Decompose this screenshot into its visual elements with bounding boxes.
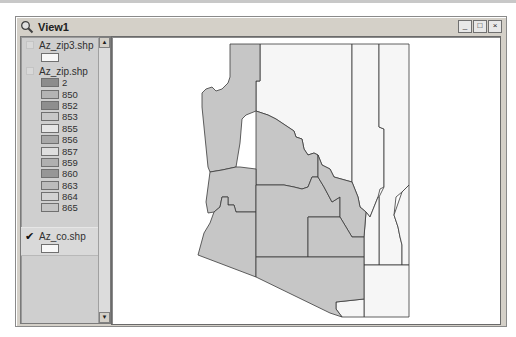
theme-visibility-checkbox[interactable] bbox=[26, 67, 34, 75]
theme-visibility-checkbox[interactable] bbox=[26, 41, 34, 49]
legend-class: 853 bbox=[21, 111, 99, 122]
legend-class: 865 bbox=[21, 202, 99, 213]
legend-class: 856 bbox=[21, 134, 99, 145]
legend-swatch bbox=[41, 203, 59, 212]
title-bar[interactable]: View1 _ □ × bbox=[18, 19, 504, 35]
maximize-button[interactable]: □ bbox=[473, 20, 487, 33]
legend-class: 860 bbox=[21, 168, 99, 179]
legend-label: 850 bbox=[62, 89, 78, 100]
checkmark-icon[interactable]: ✔ bbox=[25, 231, 35, 242]
legend-class: 855 bbox=[21, 123, 99, 134]
theme-az-zip[interactable]: Az_zip.shp 2 850 852 853 855 856 857 859… bbox=[21, 65, 99, 214]
county-mohave bbox=[202, 44, 260, 172]
legend-label: 855 bbox=[62, 123, 78, 134]
legend-symbol bbox=[41, 244, 59, 253]
close-button[interactable]: × bbox=[488, 20, 502, 33]
legend-swatch bbox=[41, 112, 59, 121]
legend-swatch bbox=[41, 135, 59, 144]
scroll-down-button[interactable]: ▼ bbox=[99, 312, 110, 323]
legend-label: 853 bbox=[62, 111, 78, 122]
theme-az-co[interactable]: ✔ Az_co.shp bbox=[21, 227, 99, 256]
theme-name: Az_zip3.shp bbox=[39, 40, 93, 51]
legend-label: 859 bbox=[62, 157, 78, 168]
view-window: View1 _ □ × Az_zip3.shp Az_zip.shp 2 850 bbox=[15, 16, 507, 327]
window-controls: _ □ × bbox=[457, 20, 502, 33]
theme-name: Az_co.shp bbox=[39, 231, 86, 242]
theme-name: Az_zip.shp bbox=[39, 66, 88, 77]
legend-swatch bbox=[41, 158, 59, 167]
legend-label: 857 bbox=[62, 146, 78, 157]
legend-label: 2 bbox=[62, 77, 67, 88]
arizona-counties-map bbox=[112, 37, 500, 324]
legend-class: 852 bbox=[21, 100, 99, 111]
map-canvas[interactable] bbox=[111, 36, 501, 325]
legend-class: 863 bbox=[21, 180, 99, 191]
county-cochise bbox=[364, 265, 409, 317]
minimize-button[interactable]: _ bbox=[458, 20, 472, 33]
theme-az-zip3[interactable]: Az_zip3.shp bbox=[21, 39, 99, 63]
legend-class: 2 bbox=[21, 77, 99, 88]
legend-class: 850 bbox=[21, 88, 99, 99]
legend-swatch bbox=[41, 192, 59, 201]
legend-swatch bbox=[41, 181, 59, 190]
legend-swatch bbox=[41, 169, 59, 178]
legend-label: 864 bbox=[62, 191, 78, 202]
legend-swatch bbox=[41, 147, 59, 156]
legend-class: 859 bbox=[21, 157, 99, 168]
legend-label: 865 bbox=[62, 202, 78, 213]
toc-scrollbar[interactable]: ▲ ▼ bbox=[98, 37, 110, 323]
legend-class: 857 bbox=[21, 145, 99, 156]
window-title: View1 bbox=[38, 21, 69, 33]
legend-label: 852 bbox=[62, 100, 78, 111]
legend-symbol bbox=[41, 53, 59, 62]
view-magnifier-icon bbox=[20, 20, 34, 34]
legend-label: 863 bbox=[62, 180, 78, 191]
legend-swatch bbox=[41, 124, 59, 133]
legend-swatch bbox=[41, 78, 59, 87]
legend-label: 860 bbox=[62, 168, 78, 179]
scroll-up-button[interactable]: ▲ bbox=[99, 37, 110, 48]
table-of-contents: Az_zip3.shp Az_zip.shp 2 850 852 853 855… bbox=[20, 36, 111, 324]
legend-swatch bbox=[41, 90, 59, 99]
legend-swatch bbox=[41, 101, 59, 110]
legend-class: 864 bbox=[21, 191, 99, 202]
top-edge bbox=[0, 0, 516, 3]
legend-label: 856 bbox=[62, 134, 78, 145]
